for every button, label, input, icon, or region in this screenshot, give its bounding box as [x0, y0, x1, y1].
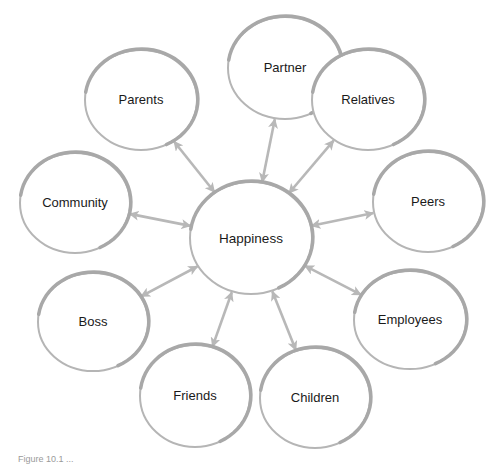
arrow-happiness-relatives [289, 141, 334, 193]
node-relatives: Relatives [312, 49, 425, 150]
node-parents: Parents [85, 49, 198, 150]
node-friends: Friends [140, 344, 251, 447]
node-label: Peers [411, 194, 445, 209]
node-label: Relatives [341, 92, 395, 107]
node-children: Children [260, 347, 371, 448]
node-label: Boss [79, 314, 108, 329]
node-group: HappinessPartnerRelativesPeersEmployeesC… [20, 16, 484, 448]
node-community: Community [20, 152, 131, 253]
arrow-happiness-boss [141, 267, 197, 297]
node-happiness: Happiness [190, 181, 313, 294]
node-label: Employees [378, 312, 443, 327]
happiness-diagram: HappinessPartnerRelativesPeersEmployeesC… [0, 0, 496, 464]
arrow-happiness-friends [213, 292, 232, 346]
node-peers: Peers [373, 151, 484, 252]
node-label: Friends [173, 388, 217, 403]
arrow-happiness-peers [312, 213, 374, 226]
node-label: Happiness [219, 231, 283, 246]
arrow-happiness-children [272, 292, 295, 351]
arrow-happiness-employees [305, 266, 361, 295]
node-boss: Boss [38, 272, 149, 371]
arrow-happiness-parents [174, 142, 214, 193]
arrow-happiness-community [130, 214, 191, 226]
node-employees: Employees [354, 270, 467, 369]
node-label: Partner [264, 60, 307, 75]
figure-caption: Figure 10.1 ... [18, 454, 74, 464]
node-label: Children [291, 390, 339, 405]
arrow-happiness-partner [262, 119, 275, 182]
node-label: Community [42, 195, 108, 210]
node-label: Parents [119, 92, 164, 107]
